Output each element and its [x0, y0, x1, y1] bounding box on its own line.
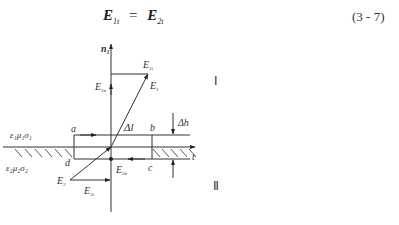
boundary-hatching-right — [153, 149, 196, 157]
E2n-label: E2n — [115, 164, 128, 176]
corner-b-label: b — [150, 122, 155, 133]
corner-a-label: a — [71, 123, 76, 134]
delta-h-label: Δh — [177, 117, 189, 128]
E1t-label: E1t — [142, 59, 154, 71]
boundary-point — [109, 157, 113, 161]
region-II-label: Ⅱ — [213, 179, 219, 193]
E1-label: E1 — [149, 80, 159, 92]
boundary-diagram: n1 E1t E1 E1n Ⅰ Ⅱ ε₁μ₁σ₁ ε₂μ₂σ₂ a b c d … — [0, 0, 399, 225]
medium-2-label: ε₂μ₂σ₂ — [6, 163, 28, 173]
tangent-axis-label: t — [192, 151, 195, 162]
delta-l-label: Δl — [123, 121, 134, 133]
E1-vector — [111, 74, 148, 147]
medium-1-label: ε₁μ₁σ₁ — [10, 130, 32, 140]
corner-d-label: d — [65, 157, 71, 168]
corner-c-label: c — [148, 162, 153, 173]
E2-vector — [70, 147, 111, 180]
region-I-label: Ⅰ — [214, 74, 218, 88]
normal-vector-label: n1 — [101, 43, 110, 55]
boundary-hatching-left — [15, 149, 72, 157]
E2-label: E2 — [56, 175, 66, 187]
E1n-label: E1n — [94, 81, 107, 93]
E2t-label: E2t — [83, 185, 95, 197]
